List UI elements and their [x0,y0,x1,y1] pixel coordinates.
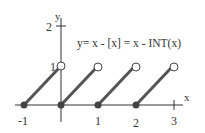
y-tick-label-2: 2 [46,20,52,34]
y-tick-label-1: 1 [50,60,56,74]
open-dots [57,62,178,71]
x-tick-label-1: 1 [95,114,101,128]
x-tick-label-neg1: -1 [18,114,28,128]
sawtooth-chart: y x 2 1 -1 1 2 3 y= x - [x] = x - INT(x) [0,0,205,133]
x-tick-label-2: 2 [133,116,139,130]
x-tick-label-3: 3 [171,114,177,128]
chart-title: y= x - [x] = x - INT(x) [77,37,181,50]
segments [24,68,171,105]
y-axis-label: y [55,10,61,22]
x-axis-label: x [184,91,190,103]
